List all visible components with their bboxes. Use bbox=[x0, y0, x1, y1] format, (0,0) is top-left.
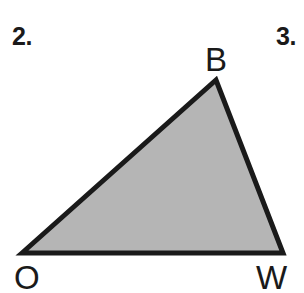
triangle-obw-shape bbox=[22, 80, 283, 253]
geometry-figure-canvas: 2. 3. B O W bbox=[0, 0, 304, 293]
problem-number-3: 3. bbox=[276, 24, 296, 49]
vertex-label-w: W bbox=[256, 261, 287, 293]
problem-number-2: 2. bbox=[12, 24, 32, 49]
vertex-label-b: B bbox=[205, 43, 227, 76]
vertex-label-o: O bbox=[14, 261, 40, 293]
triangle-drawing-area bbox=[0, 0, 304, 293]
